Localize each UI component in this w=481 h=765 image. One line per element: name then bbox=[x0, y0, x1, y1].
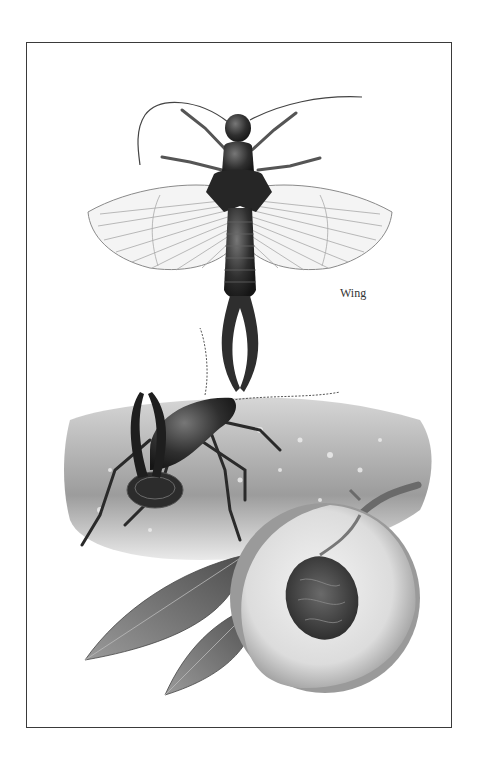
wing-label: Wing bbox=[340, 286, 366, 301]
flying-earwig bbox=[88, 97, 392, 392]
forceps bbox=[222, 296, 259, 392]
earwig-illustration bbox=[0, 0, 481, 765]
peach-leaves bbox=[85, 555, 255, 695]
wing-right bbox=[248, 185, 392, 270]
antenna-right bbox=[250, 97, 362, 120]
head bbox=[225, 114, 251, 142]
wing-left bbox=[88, 185, 232, 270]
